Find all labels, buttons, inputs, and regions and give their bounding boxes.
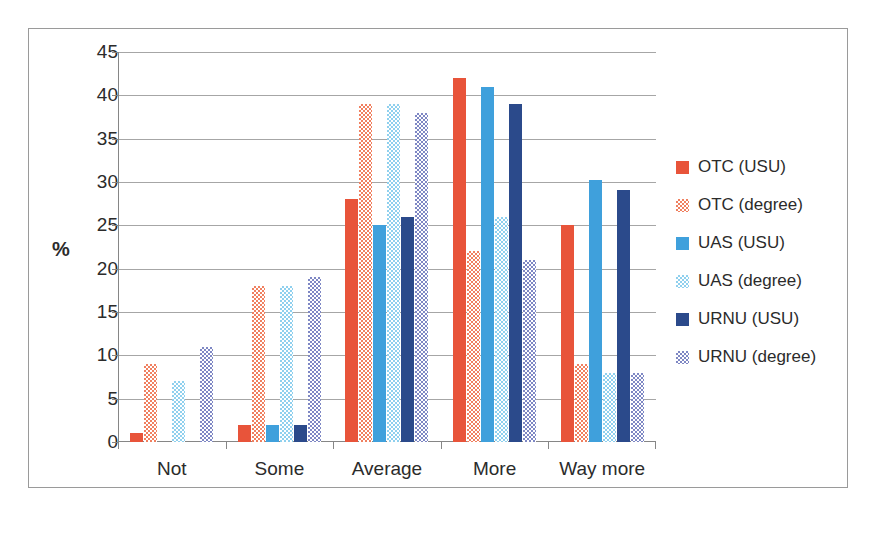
chart-screenshot: % 051015202530354045 NotSomeAverageMoreW…: [0, 0, 877, 540]
legend-swatch-icon: [676, 313, 689, 326]
bar: [495, 217, 508, 442]
legend-swatch-icon: [676, 237, 689, 250]
x-tick-label: Way more: [548, 458, 656, 480]
bar: [373, 225, 386, 442]
x-tick-label: More: [441, 458, 549, 480]
bar: [523, 260, 536, 442]
bar-groups: [118, 52, 656, 442]
bar: [200, 347, 213, 442]
legend-label: UAS (USU): [698, 233, 785, 253]
x-tick-label: Not: [118, 458, 226, 480]
legend-swatch-icon: [676, 351, 689, 364]
bar: [561, 225, 574, 442]
legend-label: URNU (degree): [698, 347, 816, 367]
chart-legend: OTC (USU)OTC (degree)UAS (USU)UAS (degre…: [676, 148, 846, 376]
legend-item[interactable]: UAS (USU): [676, 224, 846, 262]
x-tick-mark: [441, 442, 442, 449]
bar: [359, 104, 372, 442]
legend-item[interactable]: URNU (degree): [676, 338, 846, 376]
y-axis-label: %: [52, 238, 70, 261]
bar: [172, 381, 185, 442]
bar: [481, 87, 494, 442]
bar: [603, 373, 616, 442]
x-tick-mark: [118, 442, 119, 449]
legend-swatch-icon: [676, 199, 689, 212]
bar: [631, 373, 644, 442]
bar: [453, 78, 466, 442]
bar: [589, 180, 602, 442]
x-tick-mark: [655, 442, 656, 449]
legend-label: OTC (degree): [698, 195, 803, 215]
bar: [345, 199, 358, 442]
legend-swatch-icon: [676, 275, 689, 288]
legend-label: UAS (degree): [698, 271, 802, 291]
bar: [401, 217, 414, 442]
bar: [387, 104, 400, 442]
bar: [509, 104, 522, 442]
bar: [280, 286, 293, 442]
bar-group-average: [333, 52, 441, 442]
x-axis-labels: NotSomeAverageMoreWay more: [118, 458, 656, 480]
bar: [252, 286, 265, 442]
bar: [467, 251, 480, 442]
bar: [308, 277, 321, 442]
bar: [266, 425, 279, 442]
legend-item[interactable]: UAS (degree): [676, 262, 846, 300]
x-tick-label: Average: [333, 458, 441, 480]
bar-group-more: [441, 52, 549, 442]
bar-group-way-more: [548, 52, 656, 442]
bar: [130, 433, 143, 442]
legend-item[interactable]: OTC (degree): [676, 186, 846, 224]
bar: [617, 190, 630, 442]
legend-item[interactable]: OTC (USU): [676, 148, 846, 186]
x-tick-mark: [548, 442, 549, 449]
plot-area: [118, 52, 656, 442]
legend-swatch-icon: [676, 161, 689, 174]
bar: [415, 113, 428, 442]
bar-group-some: [226, 52, 334, 442]
bar: [575, 364, 588, 442]
bar: [238, 425, 251, 442]
bar-group-not: [118, 52, 226, 442]
x-tick-label: Some: [226, 458, 334, 480]
legend-item[interactable]: URNU (USU): [676, 300, 846, 338]
x-tick-mark: [226, 442, 227, 449]
x-tick-mark: [333, 442, 334, 449]
bar: [144, 364, 157, 442]
legend-label: URNU (USU): [698, 309, 799, 329]
bar: [294, 425, 307, 442]
legend-label: OTC (USU): [698, 157, 786, 177]
